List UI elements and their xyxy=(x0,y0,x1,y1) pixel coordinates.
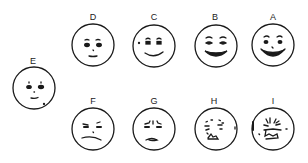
face-b-outline xyxy=(195,25,237,67)
face-g-outline xyxy=(133,108,175,150)
face-b-eyes xyxy=(206,42,226,44)
face-label-e: E xyxy=(23,56,43,66)
face-label-h: H xyxy=(204,96,224,106)
face-c-eyebrows xyxy=(146,38,161,39)
face-d-mouth xyxy=(89,56,97,57)
face-e-mouth xyxy=(31,98,38,99)
face-h-grimace xyxy=(208,134,218,139)
face-g-mouth xyxy=(146,139,157,141)
face-label-b: B xyxy=(205,12,225,22)
face-a-right-eye xyxy=(278,41,282,44)
face-i-tears xyxy=(259,129,287,135)
face-a-left-eye xyxy=(264,41,268,44)
face-label-a: A xyxy=(263,12,283,22)
face-i-eyes xyxy=(264,124,280,126)
face-label-f: F xyxy=(83,96,103,106)
face-e-outline xyxy=(13,67,55,109)
face-f xyxy=(72,108,114,150)
face-f-frown xyxy=(82,137,101,140)
face-b-smile xyxy=(205,51,227,56)
face-d-eyebrows xyxy=(85,40,100,41)
face-a-grin xyxy=(262,50,284,56)
face-h-outline xyxy=(195,108,237,150)
face-a xyxy=(252,24,294,66)
face-a-outline xyxy=(252,24,294,66)
face-i-furrows xyxy=(266,118,279,123)
face-i xyxy=(252,108,294,150)
face-a-eyebrows xyxy=(264,36,282,37)
face-f-eyebrows xyxy=(83,122,100,125)
face-label-c: C xyxy=(144,12,164,22)
facial-affective-scale: A B C D E F G H I xyxy=(0,0,308,163)
face-f-outline xyxy=(72,108,114,150)
face-d-left-eye xyxy=(85,44,90,47)
face-d-outline xyxy=(72,24,114,66)
face-c-dot xyxy=(139,43,140,44)
face-h-eyes xyxy=(205,125,222,130)
face-b-eyebrows xyxy=(206,37,226,38)
face-e-eyebrows xyxy=(29,82,41,83)
face-d-right-eye xyxy=(97,44,102,47)
face-h-tear xyxy=(207,133,208,134)
face-c-outline xyxy=(133,25,175,67)
face-b xyxy=(195,25,237,67)
face-c xyxy=(133,25,175,67)
face-e-dot xyxy=(44,104,45,105)
face-a-cheeks xyxy=(261,49,285,50)
face-g xyxy=(133,108,175,150)
faces-canvas xyxy=(0,0,308,163)
face-h-eyebrows xyxy=(206,120,224,123)
face-e-left-eye xyxy=(27,86,31,89)
face-label-g: G xyxy=(144,96,164,106)
face-c-left-eye xyxy=(146,42,150,45)
face-a-nose xyxy=(272,47,273,48)
face-d-nose xyxy=(93,50,94,51)
face-c-smile xyxy=(145,52,163,56)
face-label-d: D xyxy=(83,12,103,22)
face-d xyxy=(72,24,114,66)
face-f-nose xyxy=(93,132,94,133)
face-c-right-eye xyxy=(157,42,161,45)
face-e-right-eye xyxy=(39,86,44,89)
face-e xyxy=(13,67,55,109)
face-i-crying-mouth xyxy=(264,129,281,139)
face-h xyxy=(195,108,237,150)
face-label-i: I xyxy=(263,96,283,106)
